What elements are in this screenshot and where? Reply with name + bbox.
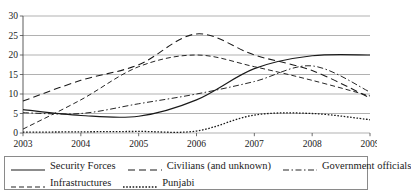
legend-item-government-officials: Government officials <box>283 160 411 172</box>
legend-row-1: Security Forces Civilians (and unknown) … <box>5 157 367 174</box>
legend-label: Civilians (and unknown) <box>167 160 271 172</box>
legend-label: Government officials <box>322 160 411 172</box>
svg-text:2005: 2005 <box>129 139 148 149</box>
svg-text:30: 30 <box>9 11 19 21</box>
series-line <box>23 55 370 118</box>
series-line <box>23 34 370 101</box>
svg-text:10: 10 <box>9 89 19 99</box>
series-line <box>23 55 370 129</box>
legend-swatch-dotted-icon <box>123 178 157 188</box>
legend-item-civilians: Civilians (and unknown) <box>128 160 271 172</box>
legend-swatch-longdash-icon <box>11 178 45 188</box>
line-chart: 0510152025302003200420052006200720082009 <box>0 8 377 152</box>
legend-item-infrastructures: Infrastructures <box>11 177 111 189</box>
chart-title <box>0 0 377 4</box>
legend-item-security-forces: Security Forces <box>11 160 116 172</box>
svg-text:15: 15 <box>9 70 19 80</box>
legend-swatch-solid-icon <box>11 161 45 171</box>
legend-label: Infrastructures <box>50 177 111 189</box>
legend-swatch-dashed-icon <box>128 161 162 171</box>
legend-swatch-dashdot-icon <box>283 161 317 171</box>
svg-text:0: 0 <box>13 128 18 138</box>
svg-text:25: 25 <box>9 31 19 41</box>
svg-text:20: 20 <box>9 50 19 60</box>
legend-row-2: Infrastructures Punjabi <box>5 174 367 191</box>
series-line <box>23 113 370 132</box>
legend-item-punjabi: Punjabi <box>123 177 194 189</box>
svg-text:2004: 2004 <box>71 139 90 149</box>
legend-label: Punjabi <box>162 177 194 189</box>
svg-text:2003: 2003 <box>14 139 33 149</box>
chart-legend: Security Forces Civilians (and unknown) … <box>4 156 368 190</box>
legend-label: Security Forces <box>50 160 116 172</box>
svg-text:2008: 2008 <box>303 139 322 149</box>
series-line <box>23 66 370 114</box>
svg-text:5: 5 <box>13 109 18 119</box>
svg-text:2009: 2009 <box>361 139 378 149</box>
svg-text:2006: 2006 <box>187 139 206 149</box>
plot-area: 0510152025302003200420052006200720082009 <box>0 8 377 152</box>
svg-text:2007: 2007 <box>245 139 264 149</box>
